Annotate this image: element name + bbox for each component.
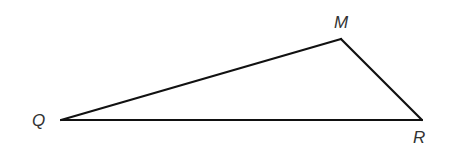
triangle-diagram: Q M R [0, 0, 450, 156]
vertex-label-r: R [413, 128, 425, 147]
vertex-label-m: M [334, 13, 349, 32]
edge-qm [61, 39, 341, 120]
vertex-label-q: Q [32, 111, 45, 130]
edge-mr [341, 39, 422, 120]
